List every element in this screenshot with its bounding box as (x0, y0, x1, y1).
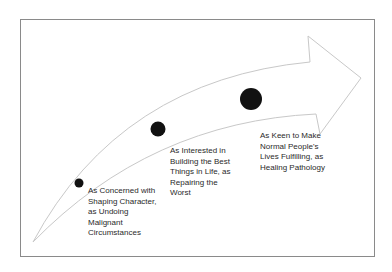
stage-label-line: As Interested in (170, 146, 230, 157)
diagram-canvas (0, 0, 392, 272)
stage-label-line: As Keen to Make (260, 131, 325, 142)
stage-label-1: As Concerned with Shaping Character, as … (88, 186, 157, 239)
stage-label-line: Worst (170, 188, 230, 199)
stage-dot-large (240, 88, 262, 110)
stage-label-line: Building the Best (170, 157, 230, 168)
stage-label-line: Normal People's (260, 142, 325, 153)
stage-label-line: Shaping Character, (88, 197, 157, 208)
stage-label-line: Healing Pathology (260, 163, 325, 174)
stage-label-line: as Undoing (88, 207, 157, 218)
stage-label-line: Repairing the (170, 178, 230, 189)
stage-label-line: Circumstances (88, 228, 157, 239)
stage-label-line: Lives Fulfilling, as (260, 152, 325, 163)
stage-dot-medium (151, 122, 166, 137)
stage-label-line: Things in Life, as (170, 167, 230, 178)
stage-label-2: As Interested in Building the Best Thing… (170, 146, 230, 199)
stage-dot-small (75, 179, 84, 188)
stage-label-line: Malignant (88, 218, 157, 229)
stage-label-3: As Keen to Make Normal People's Lives Fu… (260, 131, 325, 173)
stage-label-line: As Concerned with (88, 186, 157, 197)
